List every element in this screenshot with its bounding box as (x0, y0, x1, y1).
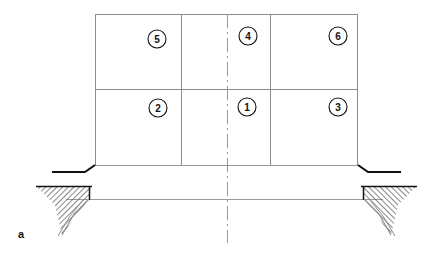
callout-bubbles: 5 4 6 2 1 3 (148, 27, 347, 117)
callout-5[interactable]: 5 (148, 30, 166, 48)
callout-label: 2 (155, 103, 161, 114)
callout-label: 4 (245, 31, 251, 42)
callout-1[interactable]: 1 (238, 98, 256, 116)
right-haunch-line (358, 165, 401, 172)
callout-label: 1 (244, 102, 250, 113)
frame-interior-grid (95, 14, 358, 166)
callout-label: 5 (154, 34, 160, 45)
haunch-details (52, 165, 401, 172)
callout-label: 3 (335, 102, 341, 113)
callout-6[interactable]: 6 (329, 27, 347, 45)
structural-elevation-diagram: 5 4 6 2 1 3 (0, 0, 448, 259)
figure-container: 5 4 6 2 1 3 a (0, 0, 448, 259)
right-footing-embankment (361, 186, 417, 236)
callout-label: 6 (335, 31, 341, 42)
figure-caption-label: a (18, 229, 24, 240)
callout-2[interactable]: 2 (149, 99, 167, 117)
left-footing-embankment (36, 186, 92, 236)
callout-4[interactable]: 4 (239, 27, 257, 45)
callout-3[interactable]: 3 (329, 98, 347, 116)
left-haunch-line (52, 165, 95, 172)
